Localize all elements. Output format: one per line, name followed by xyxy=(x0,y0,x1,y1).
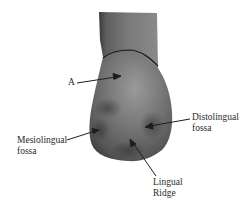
label-lingual-ridge: Lingual Ridge xyxy=(153,177,183,199)
label-a: A xyxy=(68,77,75,88)
tooth-illustration xyxy=(0,0,246,210)
tooth-diagram: A Mesiolingual fossa Distolingual fossa … xyxy=(0,0,246,210)
label-distolingual-fossa: Distolingual fossa xyxy=(192,112,239,134)
label-mesiolingual-fossa: Mesiolingual fossa xyxy=(17,135,67,157)
